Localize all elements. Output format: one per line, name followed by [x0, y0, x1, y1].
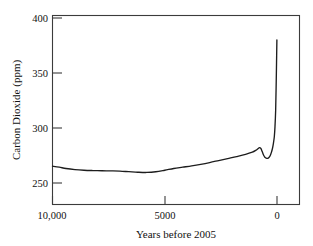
figure-container: 400 350 300 250 10,000 5000 0 Years befo…: [0, 0, 313, 246]
y-tick-label-250: 250: [32, 178, 48, 189]
y-tick-label-400: 400: [32, 13, 48, 24]
y-axis-title: Carbon Dioxide (ppm): [10, 60, 23, 161]
x-tick-label-10000: 10,000: [38, 210, 67, 221]
co2-line-chart: 400 350 300 250 10,000 5000 0 Years befo…: [0, 0, 313, 246]
x-axis-title: Years before 2005: [136, 228, 217, 240]
y-tick-label-350: 350: [32, 68, 48, 79]
x-tick-label-5000: 5000: [155, 210, 176, 221]
y-tick-label-300: 300: [32, 123, 48, 134]
x-tick-label-0: 0: [274, 210, 279, 221]
